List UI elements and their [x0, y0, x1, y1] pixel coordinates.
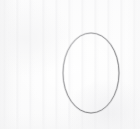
figure-canvas: [0, 0, 140, 129]
ellipse-svg: [0, 0, 140, 129]
ellipse-drawing-layer: [0, 0, 140, 129]
ellipse-outline: [63, 33, 119, 113]
